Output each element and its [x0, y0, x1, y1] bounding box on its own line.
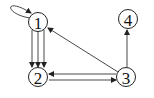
node-4: 4 — [119, 10, 138, 30]
edge-1-to-1-self-loop — [11, 6, 31, 18]
node-3: 3 — [117, 68, 136, 88]
edge-3-to-1 — [48, 28, 118, 72]
node-2: 2 — [29, 68, 48, 88]
graph-diagram: 1 2 3 4 — [0, 0, 154, 98]
node-2-label: 2 — [34, 69, 43, 88]
node-1-label: 1 — [34, 14, 43, 33]
node-1: 1 — [29, 13, 48, 33]
node-4-label: 4 — [124, 11, 133, 30]
node-3-label: 3 — [122, 69, 131, 88]
